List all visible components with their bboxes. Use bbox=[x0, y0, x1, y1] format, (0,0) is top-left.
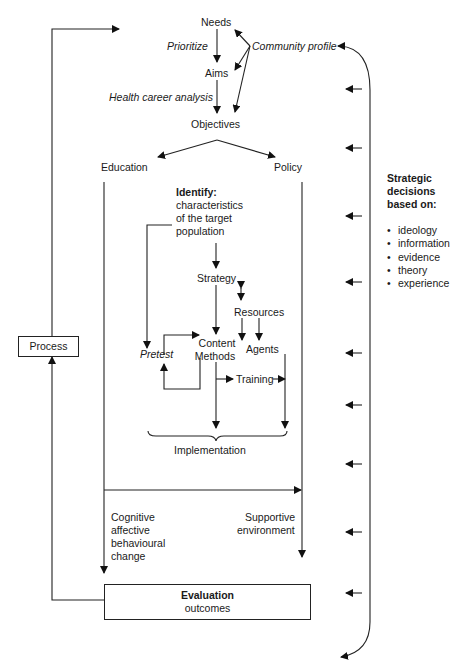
arrow-community-needs bbox=[235, 30, 250, 46]
cognitive-line: change bbox=[111, 550, 145, 563]
strategic-item: experience bbox=[387, 277, 450, 290]
process-to-needs-line bbox=[52, 29, 119, 339]
strategic-title-line: Strategic bbox=[387, 172, 450, 185]
evaluation-sub: outcomes bbox=[105, 602, 310, 615]
node-resources: Resources bbox=[234, 306, 284, 319]
arrow-objectives-policy bbox=[217, 140, 275, 157]
process-box: Process bbox=[18, 336, 79, 357]
node-content: Content bbox=[196, 337, 238, 350]
node-pretest: Pretest bbox=[140, 348, 173, 361]
node-education: Education bbox=[101, 161, 148, 174]
strategic-bracket bbox=[340, 46, 370, 657]
strategic-item: ideology bbox=[387, 224, 450, 237]
implementation-brace bbox=[148, 431, 287, 441]
evaluation-title: Evaluation bbox=[105, 589, 310, 602]
node-needs: Needs bbox=[201, 16, 231, 29]
cognitive-line: Cognitive bbox=[111, 511, 155, 524]
node-aims: Aims bbox=[205, 67, 228, 80]
cognitive-line: behavioural bbox=[111, 537, 165, 550]
strategic-list: ideology information evidence theory exp… bbox=[387, 224, 450, 290]
arrow-identify-pretest bbox=[147, 225, 172, 348]
identify-line: population bbox=[176, 225, 224, 238]
supportive-line: Supportive bbox=[245, 511, 295, 524]
identify-title: Identify: bbox=[176, 186, 217, 199]
process-label: Process bbox=[19, 340, 78, 353]
strategic-title-line: based on: bbox=[387, 198, 450, 211]
strategic-arrows bbox=[346, 89, 362, 593]
node-community-profile: Community profile bbox=[252, 40, 337, 53]
node-agents: Agents bbox=[246, 343, 279, 356]
node-objectives: Objectives bbox=[191, 118, 240, 131]
strategic-item: theory bbox=[387, 264, 450, 277]
node-policy: Policy bbox=[274, 161, 302, 174]
arrow-objectives-education bbox=[158, 140, 217, 157]
arrow-community-objectives bbox=[235, 46, 250, 112]
identify-line: of the target bbox=[176, 212, 232, 225]
node-strategy: Strategy bbox=[197, 272, 236, 285]
node-training: Training bbox=[236, 373, 274, 386]
strategic-item: information bbox=[387, 237, 450, 250]
label-health-career-analysis: Health career analysis bbox=[109, 91, 213, 104]
evaluation-box: Evaluation outcomes bbox=[104, 584, 311, 620]
identify-line: characteristics bbox=[176, 199, 243, 212]
node-methods: Methods bbox=[192, 350, 238, 363]
strategic-panel: Strategic decisions based on: ideology i… bbox=[387, 172, 450, 290]
node-implementation: Implementation bbox=[174, 444, 246, 457]
strategic-item: evidence bbox=[387, 251, 450, 264]
evaluation-to-process-line bbox=[52, 357, 104, 600]
diagram-connectors bbox=[0, 0, 468, 669]
label-prioritize: Prioritize bbox=[167, 40, 208, 53]
cognitive-line: affective bbox=[111, 524, 150, 537]
supportive-line: environment bbox=[237, 524, 295, 537]
strategic-title-line: decisions bbox=[387, 185, 450, 198]
